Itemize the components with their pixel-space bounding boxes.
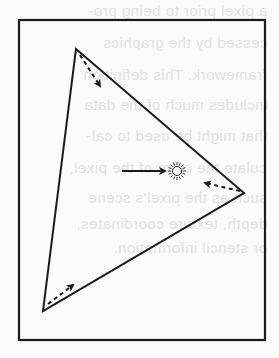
dashed-arrow-top-vertex: [80, 55, 100, 86]
triangle: [43, 49, 244, 311]
triangle-lighting-diagram: [0, 0, 279, 358]
sun-icon: [168, 162, 186, 180]
